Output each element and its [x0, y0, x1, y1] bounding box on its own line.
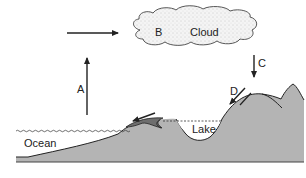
label-b: B — [155, 27, 162, 38]
diagram-canvas — [0, 0, 306, 178]
label-cloud: Cloud — [190, 27, 219, 38]
label-ocean: Ocean — [24, 138, 56, 149]
label-d: D — [230, 86, 238, 97]
label-c: C — [258, 58, 266, 69]
label-lake: Lake — [192, 124, 216, 135]
ocean-surface — [16, 130, 130, 132]
water-cycle-diagram: Cloud B A C D Lake Ocean — [0, 0, 306, 178]
label-a: A — [77, 84, 84, 95]
